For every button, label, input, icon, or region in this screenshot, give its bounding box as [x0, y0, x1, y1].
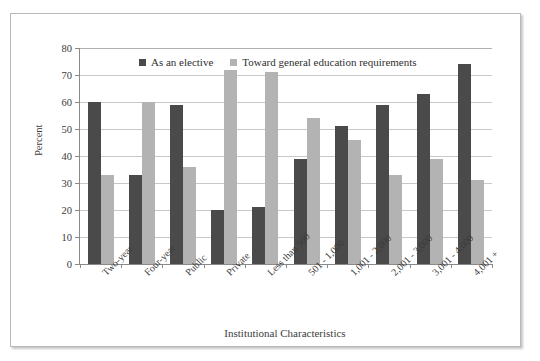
bar-toward-general-education: [430, 159, 443, 264]
legend-entry: As an elective: [139, 56, 213, 68]
bar-toward-general-education: [265, 72, 278, 264]
bar-group: [335, 48, 361, 264]
bar-toward-general-education: [224, 70, 237, 264]
y-tick-label: 60: [62, 97, 73, 108]
x-tick-mark: [492, 264, 493, 268]
bar-toward-general-education: [389, 175, 402, 264]
bar-group: [129, 48, 155, 264]
bar-group: [252, 48, 278, 264]
bar-toward-general-education: [183, 167, 196, 264]
bar-toward-general-education: [101, 175, 114, 264]
legend-swatch-icon: [230, 59, 237, 66]
legend-label: As an elective: [151, 56, 213, 68]
bar-toward-general-education: [348, 140, 361, 264]
bar-toward-general-education: [142, 102, 155, 264]
figure-frame: Percent 01020304050607080 Two-yearFour-y…: [10, 13, 521, 347]
bar-as-an-elective: [88, 102, 101, 264]
bar-group: [417, 48, 443, 264]
bar-group: [458, 48, 484, 264]
bar-chart: Percent 01020304050607080 Two-yearFour-y…: [11, 14, 520, 346]
x-tick-mark: [80, 264, 81, 268]
bar-as-an-elective: [170, 105, 183, 264]
x-axis-title: Institutional Characteristics: [79, 327, 491, 339]
bar-group: [88, 48, 114, 264]
bars-layer: [80, 48, 492, 264]
legend-entry: Toward general education requirements: [230, 56, 416, 68]
y-tick-label: 30: [62, 178, 73, 189]
bar-toward-general-education: [471, 180, 484, 264]
bar-toward-general-education: [307, 118, 320, 264]
chart-legend: As an electiveToward general education r…: [139, 56, 417, 68]
bar-as-an-elective: [211, 210, 224, 264]
bar-group: [211, 48, 237, 264]
bar-group: [294, 48, 320, 264]
y-tick-label: 0: [67, 259, 72, 270]
legend-swatch-icon: [139, 59, 146, 66]
y-axis-title: Percent: [33, 125, 44, 157]
x-tick-mark: [286, 264, 287, 268]
plot-area: 01020304050607080: [79, 48, 492, 265]
y-tick-label: 40: [62, 151, 73, 162]
x-tick-mark: [327, 264, 328, 268]
y-tick-label: 70: [62, 70, 73, 81]
bar-group: [170, 48, 196, 264]
y-tick-label: 10: [62, 232, 73, 243]
y-tick-label: 80: [62, 43, 73, 54]
bar-group: [376, 48, 402, 264]
bar-as-an-elective: [252, 207, 265, 264]
y-tick-label: 20: [62, 205, 73, 216]
legend-label: Toward general education requirements: [242, 56, 416, 68]
x-tick-mark: [121, 264, 122, 268]
y-tick-label: 50: [62, 124, 73, 135]
